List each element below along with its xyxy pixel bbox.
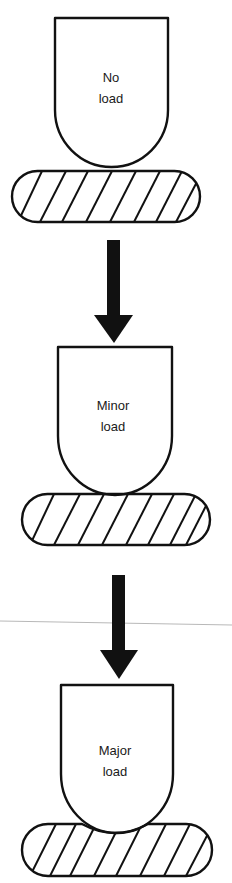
arrow-down-icon: [94, 240, 133, 343]
stage-major-load: Major load: [22, 685, 212, 876]
stage-minor-load: Minor load: [22, 347, 210, 545]
specimen-no-load: [12, 171, 200, 222]
label-no-load-line2: load: [99, 91, 124, 106]
specimen-major-load: [22, 824, 212, 876]
specimen-minor-load: [22, 494, 210, 545]
label-minor-load-line1: Minor: [97, 398, 130, 413]
label-major-load-line2: load: [103, 764, 128, 779]
arrow-down-icon: [100, 575, 138, 679]
label-no-load-line1: No: [103, 70, 120, 85]
indenter-major-load: [61, 685, 173, 833]
stage-no-load: No load: [12, 18, 200, 222]
label-major-load-line1: Major: [99, 743, 132, 758]
hardness-test-diagram: No load Minor load: [0, 0, 232, 883]
label-minor-load-line2: load: [101, 419, 126, 434]
